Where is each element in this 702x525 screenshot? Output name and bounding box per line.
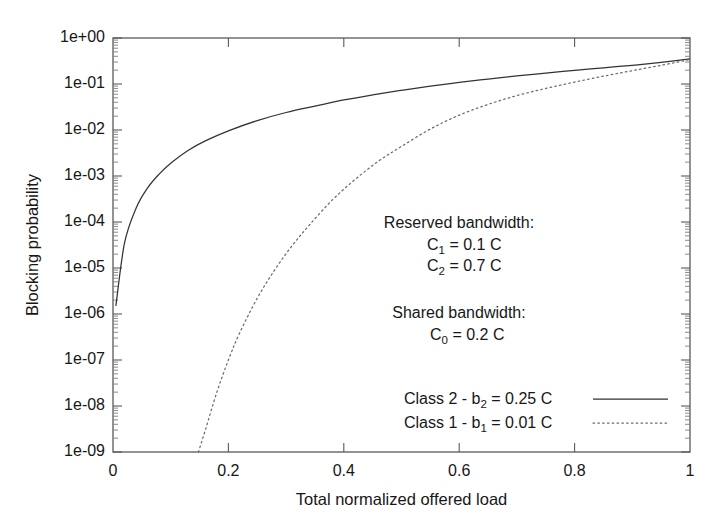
legend2-prefix: Class 1 - b [404,414,481,431]
series-line-class2 [116,59,690,306]
x-tick-label: 0.4 [333,462,355,479]
shared-bandwidth-heading: Shared bandwidth: [392,304,525,321]
y-tick-label: 1e-09 [64,442,105,459]
x-tick-label: 0.6 [448,462,470,479]
blocking-probability-chart: 1e+00 1e-01 1e-02 1e-03 1e-04 1e-05 1e-0… [0,0,702,525]
axis-tick-marks [113,38,690,452]
legend-entry-class1-label: Class 1 - b1 = 0.01 C [404,414,552,434]
x-axis-tick-labels: 0 0.2 0.4 0.6 0.8 1 [109,462,695,479]
legend1-prefix: Class 2 - b [404,390,481,407]
y-tick-label: 1e-08 [64,396,105,413]
x-tick-label: 1 [686,462,695,479]
y-axis-title: Blocking probability [23,173,41,316]
y-tick-label: 1e-06 [64,304,105,321]
y-tick-label: 1e-05 [64,258,105,275]
reserved-c2-line: C2 = 0.7 C [427,257,501,277]
y-tick-label: 1e-01 [64,74,105,91]
y-tick-label: 1e+00 [60,28,105,45]
x-tick-label: 0.8 [563,462,585,479]
y-tick-label: 1e-07 [64,350,105,367]
legend-entry-class2-label: Class 2 - b2 = 0.25 C [404,390,552,410]
shared-c0-line: C0 = 0.2 C [430,326,504,346]
annotation-shared-bandwidth: Shared bandwidth: C0 = 0.2 C [392,304,525,346]
c2-rest: = 0.7 C [445,257,501,274]
legend1-rest: = 0.25 C [487,390,552,407]
y-tick-label: 1e-02 [64,120,105,137]
annotation-reserved-bandwidth: Reserved bandwidth: C1 = 0.1 C C2 = 0.7 … [384,214,534,277]
x-axis-title: Total normalized offered load [296,490,508,508]
c2-base: C [427,257,439,274]
legend2-rest: = 0.01 C [487,414,552,431]
x-tick-label: 0 [109,462,118,479]
c0-base: C [430,326,442,343]
c1-rest: = 0.1 C [445,236,501,253]
plot-frame [113,38,690,452]
y-tick-label: 1e-04 [64,212,105,229]
c1-base: C [427,236,439,253]
chart-legend: Class 2 - b2 = 0.25 C Class 1 - b1 = 0.0… [404,390,668,434]
y-axis-tick-labels: 1e+00 1e-01 1e-02 1e-03 1e-04 1e-05 1e-0… [60,28,105,459]
y-tick-label: 1e-03 [64,166,105,183]
x-tick-label: 0.2 [217,462,239,479]
chart-figure: 1e+00 1e-01 1e-02 1e-03 1e-04 1e-05 1e-0… [0,0,702,525]
c0-rest: = 0.2 C [448,326,504,343]
reserved-bandwidth-heading: Reserved bandwidth: [384,214,534,231]
reserved-c1-line: C1 = 0.1 C [427,236,501,256]
